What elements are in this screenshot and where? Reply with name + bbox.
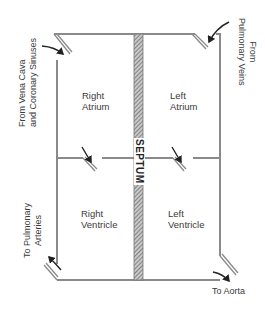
pulmonary-valve <box>44 263 58 280</box>
vena-cava-label: From Vena Cava and Coronary Sinuses <box>17 38 39 127</box>
heart-diagram <box>0 0 265 310</box>
pulmonary-veins-label: From Pulmonary Veins <box>236 18 258 86</box>
left-atrium-label: Left Atrium <box>170 90 197 112</box>
vena-cava-valve <box>54 34 72 54</box>
arrow-mitral <box>172 147 181 162</box>
aortic-valve <box>220 254 238 275</box>
right-ventricle-label: Right Ventricle <box>81 208 117 230</box>
left-ventricle-label: Left Ventricle <box>168 208 204 230</box>
arrow-vena-cava <box>42 46 63 54</box>
pulmonary-arteries-label: To Pulmonary Arteries <box>22 203 44 258</box>
pulmonary-vein-valve <box>192 34 208 49</box>
right-atrium-label: Right Atrium <box>82 90 109 112</box>
aorta-label: To Aorta <box>212 286 245 297</box>
septum-label: SEPTUM <box>134 138 145 185</box>
arrow-tricuspid <box>82 147 91 162</box>
